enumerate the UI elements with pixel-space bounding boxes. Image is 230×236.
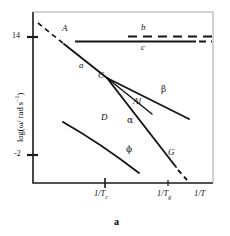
plot-svg	[0, 0, 230, 236]
curve-label-phi: ϕ	[126, 145, 132, 154]
x-tick-label-tg: 1/Tg	[157, 189, 171, 200]
curve-label-beta: β	[161, 85, 166, 94]
curve-label-A: A	[62, 24, 68, 33]
curve-label-c: c	[141, 43, 145, 52]
y-tick-label-minus2: -2	[14, 150, 21, 158]
series-al	[107, 78, 152, 114]
series-alpha	[107, 78, 187, 180]
x-tick-tg-main: 1/T	[157, 188, 168, 198]
curve-label-b: b	[141, 23, 146, 32]
x-tick-tc-main: 1/T	[94, 188, 105, 198]
y-axis-label-text: log(ω/ rad s	[15, 102, 25, 142]
series-beta	[107, 78, 189, 119]
x-tick-label-tc: 1/Tc	[94, 189, 108, 200]
curve-label-G: G	[168, 148, 175, 157]
series-a	[38, 23, 107, 78]
figure-container: 14 -2 log(ω/ rad s−1) 1/Tc 1/Tg 1/T A b …	[0, 0, 230, 236]
y-axis-label: log(ω/ rad s−1)	[14, 93, 25, 142]
curve-label-Al: Al	[133, 97, 141, 106]
curve-label-alpha: α	[127, 116, 133, 125]
x-tick-tc-sub: c	[105, 194, 108, 200]
figure-caption: a	[114, 216, 119, 227]
curve-label-D: D	[101, 113, 108, 122]
y-axis-label-exponent: −1	[14, 96, 20, 102]
curve-label-C: C	[98, 71, 104, 80]
curve-label-a: a	[79, 61, 84, 70]
x-tick-tg-sub: g	[168, 194, 171, 200]
y-axis-label-close: )	[15, 93, 25, 96]
x-axis-title: 1/T	[194, 189, 205, 198]
y-tick-label-14: 14	[12, 32, 20, 40]
